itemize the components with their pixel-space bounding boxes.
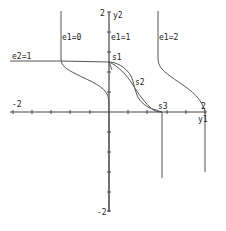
plot-canvas: 2 y2 e1=0 e1=1 e1=2 e2=1 s1 s2 s3 -2 2 y… — [0, 0, 226, 231]
label-s3: s3 — [158, 102, 168, 111]
label-e1-1: e1=1 — [111, 33, 130, 42]
curve-e2-1 — [10, 61, 109, 62]
label-e1-0: e1=0 — [62, 33, 81, 42]
x-max-label: 2 — [201, 102, 206, 111]
x-axis-label: y1 — [198, 115, 208, 124]
label-e1-2: e1=2 — [159, 33, 178, 42]
label-e2-1: e2=1 — [12, 52, 31, 61]
curve-e1-1-lower — [109, 62, 162, 112]
y-min-label: -2 — [97, 208, 107, 217]
label-s2: s2 — [135, 78, 145, 87]
label-s1: s1 — [112, 53, 122, 62]
y-max-label: 2 — [100, 9, 105, 18]
y-axis-label: y2 — [113, 11, 123, 20]
labels: 2 y2 e1=0 e1=1 e1=2 e2=1 s1 s2 s3 -2 2 y… — [12, 9, 208, 217]
x-min-label: -2 — [12, 100, 22, 109]
